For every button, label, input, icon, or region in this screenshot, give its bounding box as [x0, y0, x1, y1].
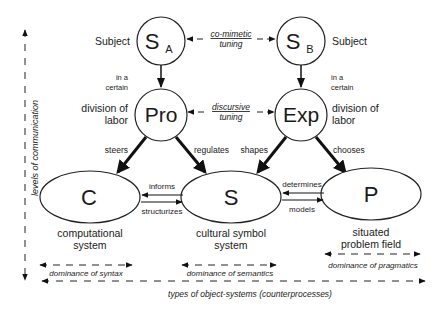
- dominance-syntax: dominance of syntax: [40, 265, 132, 278]
- p-symbol: P: [364, 182, 379, 207]
- chooses-label: chooses: [333, 145, 365, 155]
- c-symbol: C: [81, 185, 97, 210]
- c-caption-2: system: [73, 239, 107, 251]
- subject-b-to-exp-edge: in a certain: [301, 65, 354, 92]
- subject-a-subscript: A: [165, 43, 173, 55]
- discursive-tuning-label: tuning: [219, 112, 242, 122]
- node-computational-system: C computational system: [40, 171, 140, 251]
- co-mimetic-label: co-mimetic: [210, 29, 252, 39]
- p-caption-2: problem field: [341, 238, 401, 250]
- node-situated-problem-field: P situated problem field: [321, 168, 421, 250]
- shapes-label: shapes: [241, 145, 268, 155]
- dominance-pragmatics-label: dominance of pragmatics: [328, 261, 417, 270]
- s-caption-2: system: [214, 239, 248, 251]
- node-cultural-symbol-system: S cultural symbol system: [181, 171, 281, 251]
- dominance-syntax-label: dominance of syntax: [49, 269, 123, 278]
- certain-right: certain: [331, 83, 354, 92]
- discursive-tuning-edge: discursive tuning: [188, 102, 274, 122]
- dominance-pragmatics: dominance of pragmatics: [325, 254, 420, 270]
- vertical-axis: levels of communication: [25, 30, 40, 280]
- exp-label-1: division of: [332, 102, 379, 114]
- node-exp: Exp division of labor: [275, 89, 379, 141]
- node-subject-b: S B Subject: [277, 17, 367, 65]
- steers-label: steers: [105, 145, 128, 155]
- determines-label: determines: [282, 180, 322, 189]
- certain-left: certain: [105, 83, 128, 92]
- c-caption-1: computational: [57, 227, 122, 239]
- models-label: models: [289, 205, 315, 214]
- subject-a-to-pro-edge: in a certain: [105, 65, 161, 92]
- subject-b-label: Subject: [332, 35, 367, 47]
- pro-label-2: labor: [105, 114, 129, 126]
- subject-b-subscript: B: [306, 43, 313, 55]
- node-subject-a: S A Subject: [95, 17, 185, 65]
- in-a-right: in a: [331, 73, 344, 82]
- subject-b-symbol: S: [286, 29, 301, 54]
- vertical-axis-label: levels of communication: [30, 100, 40, 196]
- node-pro: Pro division of labor: [81, 89, 187, 141]
- exp-label-2: labor: [332, 114, 356, 126]
- structurizes-label: structurizes: [142, 207, 183, 216]
- s-symbol: S: [224, 185, 239, 210]
- p-caption-1: situated: [353, 226, 390, 238]
- co-mimetic-tuning-edge: co-mimetic tuning: [187, 29, 275, 49]
- diagram-canvas: levels of communication types of object-…: [0, 0, 446, 310]
- pro-outgoing-edges: steers regulates: [105, 137, 229, 172]
- horizontal-axis: types of object-systems (counterprocesse…: [42, 281, 425, 299]
- dominance-semantics: dominance of semantics: [182, 265, 276, 278]
- pro-symbol: Pro: [145, 103, 178, 126]
- in-a-left: in a: [116, 73, 129, 82]
- dominance-semantics-label: dominance of semantics: [187, 269, 273, 278]
- exp-symbol: Exp: [283, 103, 319, 126]
- subject-a-label: Subject: [95, 35, 130, 47]
- discursive-label: discursive: [212, 102, 250, 112]
- c-s-edges: informs structurizes: [141, 182, 183, 216]
- s-caption-1: cultural symbol: [196, 227, 266, 239]
- informs-label: informs: [149, 182, 175, 191]
- horizontal-axis-label: types of object-systems (counterprocesse…: [168, 289, 332, 299]
- exp-outgoing-edges: shapes chooses: [241, 137, 365, 172]
- co-mimetic-tuning-label: tuning: [219, 39, 242, 49]
- subject-a-symbol: S: [145, 29, 160, 54]
- regulates-label: regulates: [194, 145, 229, 155]
- s-p-edges: determines models: [282, 180, 324, 214]
- pro-label-1: division of: [81, 102, 128, 114]
